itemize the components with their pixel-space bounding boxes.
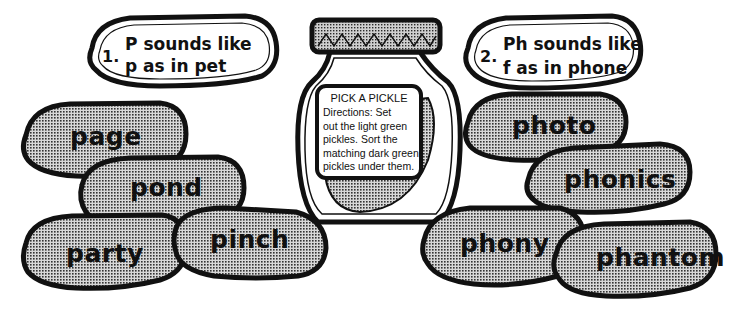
pickle-jar: PICK A PICKLE Directions: Set out the li… [298,20,460,222]
pickle-phonics[interactable]: phonics [527,144,690,212]
header-1-line2: p as in pet [125,56,226,76]
header-pickle-2: 2. Ph sounds like f as in phone [466,16,642,88]
header-1-line1: P sounds like [125,34,252,54]
directions-line-2: out the light green [323,120,407,132]
header-2-line1: Ph sounds like [503,34,642,54]
directions-line-1: Directions: Set [323,106,391,118]
header-2-line2: f as in phone [503,58,627,78]
pickle-label: phonics [564,165,676,194]
header-1-number: 1. [102,47,119,66]
pick-a-pickle-worksheet: PICK A PICKLE Directions: Set out the li… [0,0,746,313]
pickle-label: phony [460,229,549,258]
pickle-label: page [70,122,142,151]
pickle-label: photo [512,111,597,140]
directions-line-4: matching dark green [323,147,419,159]
pickle-pinch[interactable]: pinch [174,208,326,278]
header-2-number: 2. [480,47,497,66]
pickle-party[interactable]: party [23,215,186,288]
directions-title: PICK A PICKLE [330,92,407,104]
pickle-phantom[interactable]: phantom [554,222,725,296]
directions-line-3: pickles. Sort the [323,133,398,145]
pickle-label: phantom [596,243,725,272]
directions-line-5: pickles under them. [323,160,414,172]
pickle-label: pond [130,173,203,202]
header-pickle-1: 1. P sounds like p as in pet [90,16,277,86]
pickle-label: party [66,239,144,268]
pickle-label: pinch [210,225,289,254]
